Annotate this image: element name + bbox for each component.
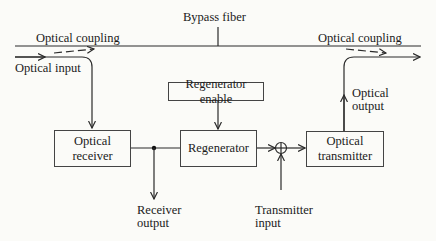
coupling-dashed-right: [346, 49, 386, 53]
bypass-fiber-label: Bypass fiber: [183, 10, 246, 24]
regenerator-enable-label: Regenerator enable: [169, 77, 263, 107]
optical-input-label: Optical input: [15, 61, 81, 75]
optical-output-label-1: Optical: [352, 86, 389, 100]
regenerator-block: Regenerator: [180, 130, 257, 167]
optical-coupling-left-label: Optical coupling: [36, 31, 120, 45]
receiver-output-label-1: Receiver: [137, 203, 181, 217]
regenerator-enable-block: Regenerator enable: [168, 82, 264, 101]
optical-receiver-block: Opticalreceiver: [54, 130, 131, 167]
optical-transmitter-line1: Optical: [318, 134, 372, 149]
optical-receiver-line1: Optical: [72, 134, 112, 149]
optical-receiver-line2: receiver: [72, 149, 112, 164]
optical-coupling-right-label: Optical coupling: [318, 31, 402, 45]
regenerator-label: Regenerator: [188, 141, 249, 156]
transmitter-input-label-1: Transmitter: [255, 203, 313, 217]
coupling-dashed-left: [54, 49, 94, 53]
optical-transmitter-line2: transmitter: [318, 149, 372, 164]
optical-output-label-2: output: [352, 99, 384, 113]
receiver-output-label-2: output: [137, 216, 169, 230]
optical-transmitter-block: Opticaltransmitter: [306, 131, 384, 167]
transmitter-input-label-2: input: [255, 216, 281, 230]
